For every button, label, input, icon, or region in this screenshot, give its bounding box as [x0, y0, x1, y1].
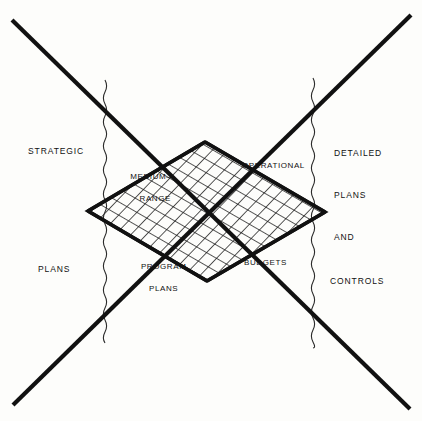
label-plans-left: PLANS [38, 264, 70, 275]
label-medium-range: MEDIUM— RANGE [119, 160, 171, 215]
label-program-plans-line1: PROGRAM [141, 262, 187, 271]
label-strategic: STRATEGIC [28, 146, 84, 157]
diagram-canvas: STRATEGIC PLANS DETAILED PLANS AND CONTR… [0, 0, 422, 421]
label-medium-range-line1: MEDIUM— [130, 172, 175, 181]
label-plans-right: PLANS [334, 190, 366, 201]
label-budgets: BUDGETS [244, 257, 287, 268]
label-controls: CONTROLS [330, 276, 384, 287]
ascending-line [13, 15, 411, 405]
label-operational: OPERATIONAL [242, 160, 305, 171]
descending-line [12, 20, 410, 409]
label-program-plans: PROGRAM PLANS [128, 250, 188, 305]
label-and: AND [334, 232, 355, 243]
label-detailed: DETAILED [334, 148, 382, 159]
diagram-vector-layer [0, 0, 422, 421]
label-program-plans-line2: PLANS [149, 284, 178, 293]
label-medium-range-line2: RANGE [140, 194, 171, 203]
